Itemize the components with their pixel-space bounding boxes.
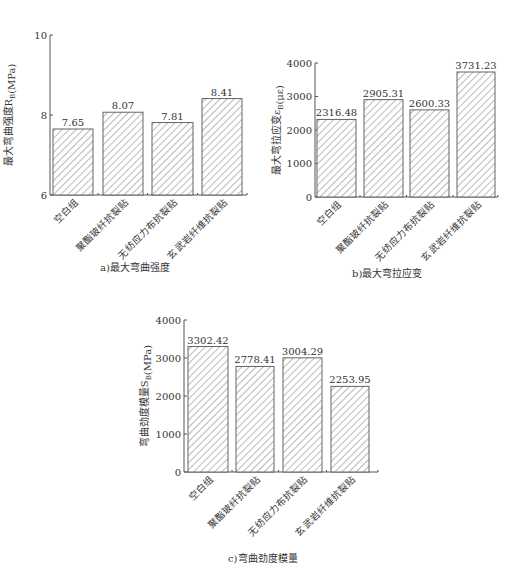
y-tick-label: 8 [41,110,47,121]
bar [364,100,403,197]
y-tick-label: 3000 [287,91,312,102]
bar-value-label: 3004.29 [282,346,323,357]
y-axis-label: 最大弯曲强度RB(MPa) [2,63,17,166]
y-tick-label: 4000 [156,315,181,326]
bar-value-label: 8.07 [112,100,134,111]
bar-value-label: 7.65 [62,117,84,128]
bar [188,347,228,472]
caption-c: c)弯曲劲度模量 [228,550,298,565]
y-tick-label: 3000 [156,353,181,364]
bar-value-label: 2778.41 [234,354,275,365]
category-label: 聚酯玻纤抗裂贴 [73,197,130,254]
y-tick-label: 2000 [156,391,181,402]
category-label: 空白组 [51,197,80,226]
bar [53,129,93,195]
bar [103,112,143,195]
y-tick-label: 1000 [156,429,181,440]
y-axis-label: 最大弯拉应变εB(με) [270,85,285,175]
y-tick-label: 0 [306,192,312,203]
bar-value-label: 2316.48 [316,107,357,118]
category-label: 空白组 [315,199,344,228]
bar [152,123,193,195]
bar [236,366,274,472]
bar-value-label: 8.41 [211,87,233,98]
y-tick-label: 10 [34,30,47,41]
bar-value-label: 2253.95 [329,374,370,385]
caption-a: a)最大弯曲强度 [100,259,170,274]
bar-value-label: 3731.23 [455,60,496,71]
bar-value-label: 3302.42 [187,335,228,346]
chart-flexural-stiffness-modulus: 010002000300040003302.42空白组2778.41聚酯玻纤抗裂… [138,315,378,538]
bar [457,72,495,197]
bar [202,99,242,195]
bar-value-label: 2600.33 [409,98,450,109]
y-tick-label: 1000 [287,158,312,169]
y-axis-label: 弯曲劲度模量SB(MPa) [138,345,153,447]
chart-max-flexural-strength: 68107.65空白组8.07聚酯玻纤抗裂贴7.81无纺应力布抗裂贴8.41玄武… [2,30,247,261]
bar [317,119,356,197]
bar [283,358,322,472]
y-tick-label: 0 [175,467,181,478]
y-tick-label: 6 [41,190,47,201]
bar [410,110,449,197]
chart-max-flexural-strain: 010002000300040002316.48空白组2905.31聚酯玻纤抗裂… [270,58,498,263]
bar-value-label: 7.81 [161,111,183,122]
y-tick-label: 4000 [287,58,312,69]
y-tick-label: 2000 [287,125,312,136]
caption-b: b)最大弯拉应变 [352,265,422,280]
bar [331,386,369,472]
bar-value-label: 2905.31 [363,88,404,99]
figure-canvas: 68107.65空白组8.07聚酯玻纤抗裂贴7.81无纺应力布抗裂贴8.41玄武… [0,0,522,582]
category-label: 空白组 [186,474,215,503]
